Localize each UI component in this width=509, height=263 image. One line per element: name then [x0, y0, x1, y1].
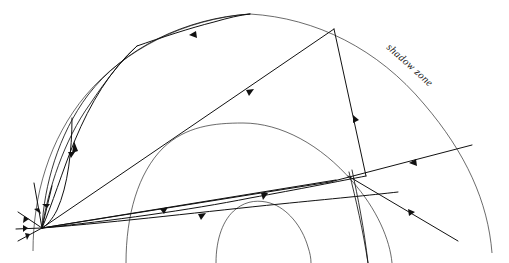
arrow-ray-upper-left-to-source: [34, 208, 41, 214]
arrow-ray-surface-down-to-critical: [353, 115, 359, 123]
ray-upgoing-steep-left: [42, 46, 137, 228]
arrow-ray-grazing-core-boundary: [261, 193, 268, 200]
ray-shallow-parallel: [42, 180, 336, 228]
ray-vertical-down-to-source: [42, 118, 72, 228]
arrow-ray-source-left-lower: [23, 225, 28, 232]
seismic-ray-path-figure: shadow zone: [0, 0, 509, 263]
shadow-zone-label: shadow zone: [385, 41, 436, 88]
ray-source-left-upper: [18, 212, 42, 228]
ray-upper-left-to-source: [34, 183, 42, 228]
arrow-ray-upgoing-steep-left: [72, 141, 78, 153]
labels-group: shadow zone: [385, 41, 436, 88]
ray-source-left-lower: [16, 228, 42, 229]
ray-critical-to-upper-right-surface: [330, 145, 472, 182]
arrow-ray-surface-to-apex: [189, 31, 197, 38]
ray-long-arc-to-apex: [42, 14, 250, 228]
arrow-ray-direct-to-surface-right: [246, 89, 254, 96]
ray-lower-shallow-right: [42, 192, 398, 228]
boundaries-group: [33, 14, 492, 263]
ray-surface-down-to-critical: [334, 29, 366, 176]
ray-diagram-canvas: shadow zone: [0, 0, 509, 263]
ray-direct-to-surface-right: [42, 29, 334, 228]
ray-transmitted-down-right: [348, 176, 458, 241]
earth-surface-arc: [33, 14, 492, 253]
ray-thin-arc-left-lobe: [42, 46, 137, 228]
ray-source-down-left: [18, 228, 42, 241]
arrow-ray-lower-shallow-right: [198, 213, 206, 220]
inner-core-boundary-arc: [216, 201, 311, 263]
